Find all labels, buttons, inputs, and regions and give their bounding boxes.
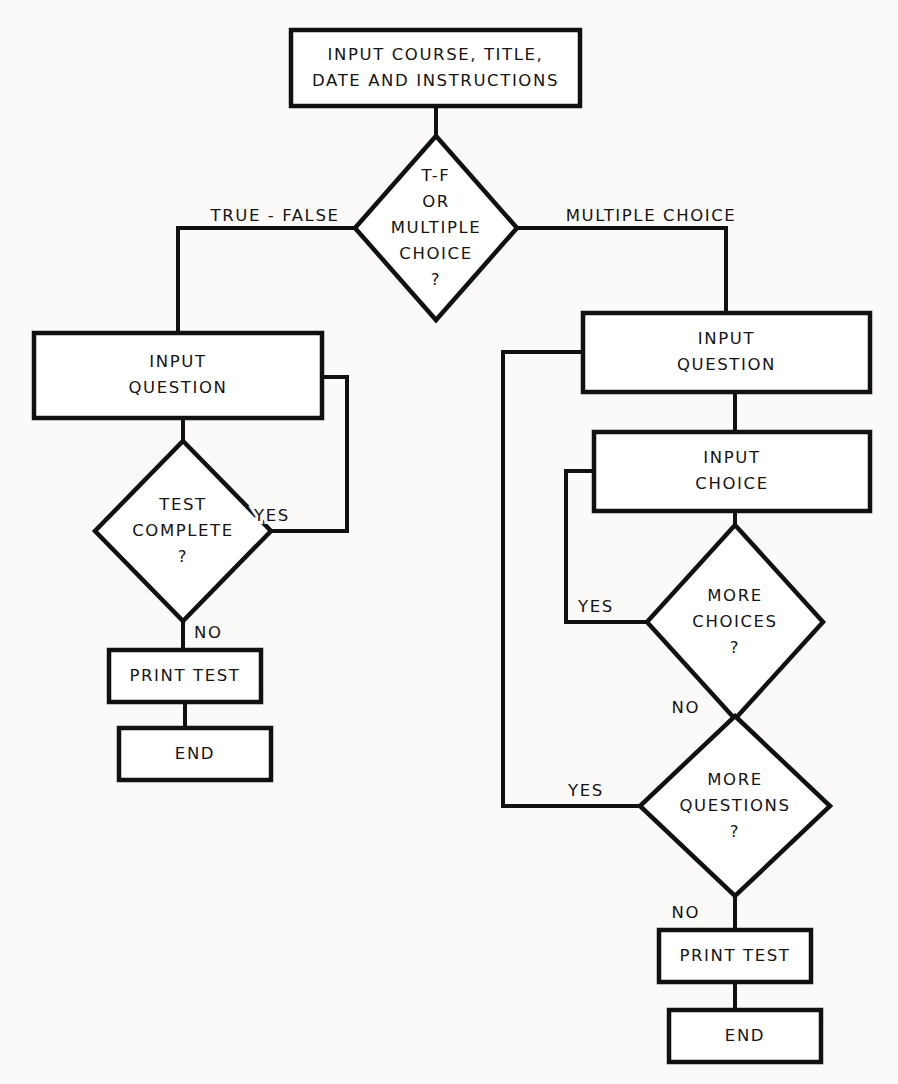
- node-mc-input-question[interactable]: INPUTQUESTION: [583, 313, 870, 392]
- node-label: T-F: [421, 166, 451, 185]
- node-label: CHOICES: [692, 612, 777, 631]
- edge-label-e-mc-choices-no: NO: [671, 698, 700, 717]
- node-label: QUESTIONS: [679, 796, 790, 815]
- node-label: PRINT TEST: [129, 666, 240, 685]
- node-mc-end[interactable]: END: [669, 1010, 821, 1062]
- node-tf-input-question[interactable]: INPUTQUESTION: [34, 333, 322, 418]
- node-label: END: [725, 1026, 765, 1045]
- process-box: [34, 333, 322, 418]
- node-start-input[interactable]: INPUT COURSE, TITLE,DATE AND INSTRUCTION…: [291, 30, 580, 106]
- node-label: COMPLETE: [132, 521, 234, 540]
- node-label: CHOICE: [695, 474, 768, 493]
- node-label: MORE: [707, 586, 763, 605]
- node-label: INPUT: [149, 352, 206, 371]
- node-label: CHOICE: [399, 244, 472, 263]
- node-type-decision[interactable]: T-FORMULTIPLECHOICE?: [355, 136, 517, 320]
- connector-e-decision-multiple-choice: [517, 228, 726, 313]
- edge-label-e-tf-yes-loop: YES: [253, 506, 290, 525]
- edge-label-e-mc-questions-yes-loop: YES: [567, 781, 604, 800]
- node-mc-more-questions[interactable]: MOREQUESTIONS?: [640, 716, 830, 896]
- node-label: INPUT: [703, 448, 760, 467]
- node-label: END: [175, 744, 215, 763]
- process-box: [583, 313, 870, 392]
- node-label: ?: [431, 270, 441, 289]
- node-mc-more-choices[interactable]: MORECHOICES?: [647, 525, 823, 719]
- nodes-layer: INPUT COURSE, TITLE,DATE AND INSTRUCTION…: [34, 30, 870, 1062]
- node-tf-print-test[interactable]: PRINT TEST: [109, 650, 261, 702]
- node-label: INPUT COURSE, TITLE,: [328, 45, 544, 64]
- node-label: DATE AND INSTRUCTIONS: [312, 71, 559, 90]
- process-box: [291, 30, 580, 106]
- node-label: MULTIPLE: [391, 218, 482, 237]
- node-mc-input-choice[interactable]: INPUTCHOICE: [594, 432, 870, 511]
- node-label: ?: [178, 547, 188, 566]
- edge-label-e-mc-choices-yes-loop: YES: [577, 597, 614, 616]
- edge-label-e-decision-true-false: TRUE - FALSE: [209, 206, 339, 225]
- flowchart-canvas: INPUT COURSE, TITLE,DATE AND INSTRUCTION…: [0, 0, 898, 1084]
- node-label: TEST: [158, 495, 206, 514]
- edge-label-e-mc-questions-no: NO: [671, 903, 700, 922]
- edge-label-e-decision-multiple-choice: MULTIPLE CHOICE: [566, 206, 737, 225]
- flowchart-svg: INPUT COURSE, TITLE,DATE AND INSTRUCTION…: [0, 0, 898, 1084]
- node-label: QUESTION: [128, 378, 227, 397]
- node-label: MORE: [707, 770, 763, 789]
- edge-label-e-tf-no: NO: [194, 623, 223, 642]
- node-label: ?: [730, 638, 740, 657]
- node-tf-end[interactable]: END: [119, 728, 271, 780]
- connector-e-decision-true-false: [178, 228, 355, 333]
- node-label: QUESTION: [677, 355, 776, 374]
- node-label: INPUT: [698, 329, 755, 348]
- process-box: [594, 432, 870, 511]
- node-label: OR: [422, 192, 450, 211]
- node-tf-test-complete[interactable]: TESTCOMPLETE?: [95, 441, 271, 621]
- node-label: ?: [730, 822, 740, 841]
- node-label: PRINT TEST: [679, 946, 790, 965]
- node-mc-print-test[interactable]: PRINT TEST: [659, 930, 811, 982]
- connector-e-mc-questions-yes-loop: [503, 352, 640, 806]
